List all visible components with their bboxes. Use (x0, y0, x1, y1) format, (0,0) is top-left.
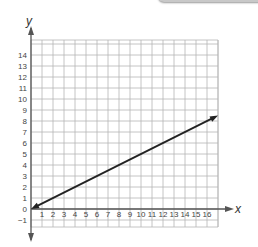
y-tick-label: 12 (18, 73, 27, 82)
x-tick-label: 16 (203, 210, 212, 219)
line-arrow-start-icon (31, 203, 39, 209)
x-tick-label: 9 (128, 210, 133, 219)
y-tick-label: 14 (18, 51, 27, 60)
y-tick-label: 3 (23, 172, 28, 181)
y-tick-label: 5 (23, 150, 28, 159)
x-tick-label: 15 (192, 210, 201, 219)
line-segment (35, 118, 213, 207)
x-tick-label: 4 (73, 210, 78, 219)
grid-lines (31, 40, 218, 227)
y-axis-arrow-down-icon (28, 233, 34, 242)
y-tick-label: 7 (23, 128, 28, 137)
y-tick-label: 4 (23, 161, 28, 170)
y-tick-label: 13 (18, 62, 27, 71)
y-tick-label: 10 (18, 95, 27, 104)
x-tick-label: 6 (95, 210, 100, 219)
y-tick-label: 11 (19, 84, 28, 93)
x-tick-label: 14 (181, 210, 190, 219)
x-tick-label: 12 (159, 210, 168, 219)
x-tick-label: 11 (148, 210, 157, 219)
x-tick-label: 5 (84, 210, 89, 219)
y-tick-label: 8 (23, 117, 28, 126)
coordinate-plane: 12345678910111213141516−1012345678910111… (0, 0, 258, 247)
x-axis-arrow-right-icon (225, 206, 234, 212)
x-tick-label: 7 (106, 210, 111, 219)
y-tick-label: 6 (23, 139, 28, 148)
x-tick-label: 13 (170, 210, 179, 219)
x-tick-label: 2 (51, 210, 56, 219)
y-tick-label: 2 (23, 183, 28, 192)
y-tick-label: 1 (23, 194, 28, 203)
x-tick-label: 8 (117, 210, 122, 219)
x-tick-label: 10 (137, 210, 146, 219)
x-tick-label: 3 (62, 210, 67, 219)
y-tick-label: 9 (23, 106, 28, 115)
y-axis-label: y (25, 14, 33, 28)
x-axis-label: x (234, 202, 242, 216)
x-tick-label: 1 (40, 210, 45, 219)
y-tick-label: −1 (18, 216, 28, 225)
y-tick-label: 0 (23, 205, 28, 214)
data-line (31, 116, 218, 210)
